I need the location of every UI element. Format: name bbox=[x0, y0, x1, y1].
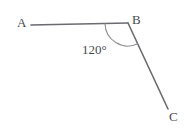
angle-figure: A B C 120° bbox=[0, 0, 184, 133]
segment-bc-line bbox=[128, 23, 168, 109]
angle-measure-label: 120° bbox=[82, 43, 107, 56]
point-label-c: C bbox=[169, 110, 178, 123]
point-label-a: A bbox=[17, 16, 26, 29]
segment-ab-line bbox=[31, 23, 128, 25]
point-label-b: B bbox=[132, 13, 141, 26]
angle-diagram-svg bbox=[0, 0, 184, 133]
